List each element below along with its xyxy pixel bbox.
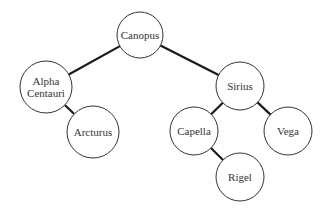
edge-canopus-to-sirius: [160, 45, 218, 75]
node-label: Canopus: [121, 29, 160, 41]
node-sirius: Sirius: [216, 62, 264, 110]
node-label: Arcturus: [74, 126, 113, 138]
node-label: Sirius: [227, 80, 253, 92]
nodes-group: CanopusAlphaCentauriArcturusSiriusCapell…: [20, 12, 312, 201]
edge-alpha-centauri-to-arcturus: [65, 105, 74, 114]
edge-capella-to-rigel: [211, 148, 223, 160]
node-vega: Vega: [264, 107, 312, 155]
node-label: Centauri: [27, 87, 65, 99]
tree-diagram: CanopusAlphaCentauriArcturusSiriusCapell…: [0, 0, 333, 212]
edge-sirius-to-vega: [258, 102, 271, 114]
node-label: Vega: [277, 125, 299, 137]
node-canopus: Canopus: [117, 12, 163, 58]
node-arcturus: Arcturus: [67, 106, 119, 158]
node-capella: Capella: [170, 107, 218, 155]
edge-canopus-to-alpha-centauri: [69, 46, 120, 74]
node-rigel: Rigel: [216, 153, 264, 201]
node-label: Capella: [177, 125, 211, 137]
node-alpha-centauri: AlphaCentauri: [20, 61, 72, 113]
edge-sirius-to-capella: [211, 103, 223, 114]
node-label: Rigel: [228, 171, 252, 183]
node-label: Alpha: [33, 75, 60, 87]
